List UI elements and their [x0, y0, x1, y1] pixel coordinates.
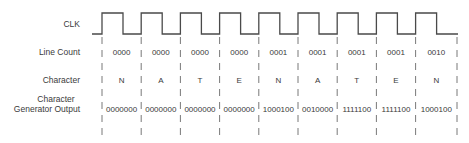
character-value: E [237, 76, 242, 85]
generator-output-value: 0000000 [224, 105, 256, 114]
output-label-line1: Character [37, 94, 74, 104]
character-row: NATENATEN [119, 76, 440, 85]
character-value: A [315, 76, 321, 85]
timing-diagram: CLK Line Count Character Character Gener… [0, 0, 469, 143]
line-count-value: 0000 [191, 48, 209, 57]
generator-output-value: 0000000 [145, 105, 177, 114]
clk-label: CLK [63, 19, 80, 29]
line-count-value: 0001 [309, 48, 327, 57]
generator-output-value: 1000100 [421, 105, 453, 114]
line-count-label: Line Count [39, 47, 81, 57]
line-count-row: 000000000000000000010001000100010010 [113, 48, 446, 57]
generator-output-value: 1111100 [382, 105, 411, 114]
generator-output-row: 0000000000000000000000000000100010000100… [106, 105, 452, 114]
line-count-value: 0001 [270, 48, 288, 57]
character-value: N [119, 76, 125, 85]
generator-output-value: 0000000 [184, 105, 216, 114]
character-label: Character [43, 75, 80, 85]
character-value: N [276, 76, 282, 85]
generator-output-value: 0010000 [302, 105, 334, 114]
line-count-value: 0000 [113, 48, 131, 57]
character-value: A [158, 76, 164, 85]
line-count-value: 0000 [230, 48, 248, 57]
line-count-value: 0000 [152, 48, 170, 57]
output-label-line2: Generator Output [14, 104, 81, 114]
character-value: N [433, 76, 439, 85]
line-count-value: 0010 [427, 48, 445, 57]
generator-output-value: 1111100 [342, 105, 371, 114]
line-count-value: 0001 [348, 48, 366, 57]
character-value: T [354, 76, 359, 85]
clock-waveform [92, 13, 458, 34]
character-value: T [198, 76, 203, 85]
generator-output-value: 1000100 [263, 105, 295, 114]
character-value: E [393, 76, 398, 85]
line-count-value: 0001 [387, 48, 405, 57]
generator-output-value: 0000000 [106, 105, 138, 114]
